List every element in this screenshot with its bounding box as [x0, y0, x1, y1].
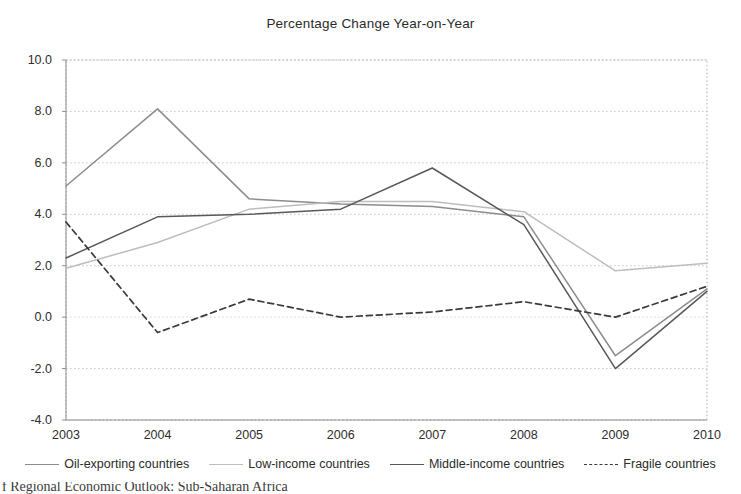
legend-item-2: Low-income countries — [209, 457, 370, 471]
x-axis-tick-label: 2008 — [489, 428, 559, 442]
x-axis-tick-label: 2010 — [672, 428, 741, 442]
legend-item-1: Oil-exporting countries — [25, 457, 189, 471]
legend-item-label: Low-income countries — [248, 457, 370, 471]
chart-svg — [0, 0, 741, 450]
x-axis-tick-label: 2004 — [123, 428, 193, 442]
series-line-2 — [66, 201, 707, 270]
x-axis-tick-label: 2007 — [397, 428, 467, 442]
legend-item-label: Middle-income countries — [429, 457, 564, 471]
y-axis-tick-label: 0.0 — [0, 310, 52, 324]
axes-frame — [62, 60, 707, 420]
y-axis-tick-label: 6.0 — [0, 156, 52, 170]
y-axis-tick-label: -4.0 — [0, 413, 52, 427]
x-axis-tick-label: 2003 — [31, 428, 101, 442]
x-axis-tick-label: 2009 — [580, 428, 650, 442]
y-axis-tick-label: 4.0 — [0, 207, 52, 221]
y-axis-tick-label: 10.0 — [0, 53, 52, 67]
series-line-4 — [66, 222, 707, 333]
y-axis-tick-label: 8.0 — [0, 104, 52, 118]
x-axis-tick-label: 2006 — [306, 428, 376, 442]
figure: Percentage Change Year-on-Year 10.08.06.… — [0, 0, 741, 494]
legend-item-label: Fragile countries — [623, 457, 715, 471]
legend-item-4: Fragile countries — [584, 457, 715, 471]
y-axis-tick-label: -2.0 — [0, 362, 52, 376]
x-axis-tick-label: 2005 — [214, 428, 284, 442]
legend-item-3: Middle-income countries — [390, 457, 564, 471]
plot-area: 10.08.06.04.02.00.0-2.0-4.0 200320042005… — [0, 0, 741, 450]
series-lines — [66, 109, 707, 369]
caption-text: f Regional Economic Outlook: Sub-Saharan… — [2, 482, 288, 494]
y-axis-tick-label: 2.0 — [0, 259, 52, 273]
chart-legend: Oil-exporting countriesLow-income countr… — [0, 452, 741, 476]
legend-item-label: Oil-exporting countries — [64, 457, 189, 471]
series-line-1 — [66, 109, 707, 356]
caption-strip: f Regional Economic Outlook: Sub-Saharan… — [0, 482, 741, 494]
